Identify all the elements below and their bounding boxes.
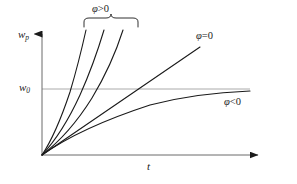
plot-canvas xyxy=(0,0,297,184)
reference-line-subscript: 0 xyxy=(26,86,30,95)
curve-phi-positive-1 xyxy=(42,30,86,155)
phi-zero-value: 0 xyxy=(208,30,213,41)
curve-phi-zero xyxy=(42,47,200,155)
annotation-phi-negative: φ<0 xyxy=(224,97,241,108)
group-bracket-phi-positive xyxy=(84,14,138,27)
reference-line-label: w0 xyxy=(19,82,30,95)
phi-positive-value: 0 xyxy=(104,3,109,14)
annotation-phi-positive: φ>0 xyxy=(92,4,109,15)
creep-curves-figure: wp w0 t φ>0 φ=0 φ<0 xyxy=(0,0,297,184)
phi-negative-value: 0 xyxy=(236,96,241,107)
x-axis-label: t xyxy=(147,161,150,172)
annotation-phi-zero: φ=0 xyxy=(196,31,213,42)
curve-phi-negative xyxy=(42,91,250,155)
y-axis-label: wp xyxy=(18,29,29,42)
curve-phi-positive-3 xyxy=(42,30,123,155)
y-axis-subscript: p xyxy=(25,33,29,42)
